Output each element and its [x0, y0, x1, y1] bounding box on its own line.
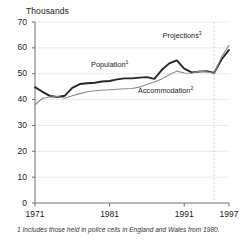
annotation-population: Population1 — [91, 60, 128, 69]
annotation-text: Accommodation — [138, 86, 190, 95]
annotation-superscript: 3 — [199, 30, 202, 36]
y-tick-label: 40 — [5, 94, 27, 104]
x-tick-label: 1971 — [15, 209, 55, 219]
x-tick-label: 1997 — [209, 209, 241, 219]
y-tick-label: 70 — [5, 17, 27, 27]
annotation-text: Population — [91, 60, 126, 69]
y-tick-label: 0 — [5, 198, 27, 208]
annotation-superscript: 1 — [126, 58, 129, 64]
y-tick-label: 60 — [5, 42, 27, 52]
annotation-accommodation: Accommodation2 — [138, 86, 193, 95]
y-tick-label: 20 — [5, 146, 27, 156]
x-tick-label: 1991 — [164, 209, 204, 219]
axis-lines — [35, 22, 229, 203]
chart-footnote: 1 Includes those held in police cells in… — [17, 225, 231, 234]
annotation-superscript: 2 — [190, 85, 193, 91]
y-tick-label: 30 — [5, 120, 27, 130]
x-tick-marks — [35, 203, 229, 207]
chart-container: Thousands 010203040506070 19711981199119… — [0, 0, 241, 246]
y-tick-label: 10 — [5, 172, 27, 182]
chart-axis-title: Thousands — [26, 6, 69, 16]
annotation-projections: Projections3 — [163, 31, 202, 40]
x-tick-label: 1981 — [90, 209, 130, 219]
data-series — [35, 45, 229, 104]
gridlines — [35, 22, 229, 177]
annotation-text: Projections — [163, 31, 199, 40]
y-tick-label: 50 — [5, 68, 27, 78]
